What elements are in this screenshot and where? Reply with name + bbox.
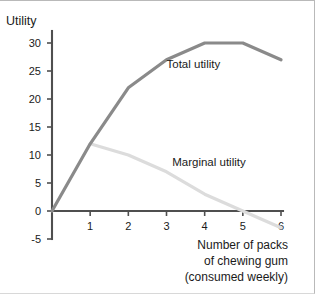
y-axis-title: Utility [6,14,37,28]
y-tick-label: 5 [35,177,41,189]
x-tick-label: 1 [87,220,93,232]
x-tick-label: 3 [163,220,169,232]
x-axis-title: Number of packsof chewing gum(consumed w… [185,238,288,284]
x-tick-label: 4 [202,220,208,232]
x-axis-title-line: of chewing gum [204,254,288,268]
y-tick-label: 20 [29,93,41,105]
utility-line-chart: Utility 302520151050-5 123456 Total util… [0,1,315,294]
x-axis-title-line: (consumed weekly) [185,270,288,284]
x-tick-label: 2 [125,220,131,232]
series-label-total-utility: Total utility [167,58,221,70]
chart-frame: Utility 302520151050-5 123456 Total util… [0,0,315,294]
y-tick-label: 10 [29,149,41,161]
y-tick-label: 0 [35,205,41,217]
x-axis-tick-labels: 123456 [87,220,284,232]
y-tick-label: -5 [31,233,41,245]
chart-plot-area: Utility 302520151050-5 123456 Total util… [0,1,314,293]
y-tick-label: 30 [29,37,41,49]
series-label-marginal-utility: Marginal utility [172,156,246,168]
y-axis-tick-labels: 302520151050-5 [29,37,41,245]
x-tick-label: 5 [240,220,246,232]
y-tick-label: 25 [29,65,41,77]
y-tick-label: 15 [29,121,41,133]
x-axis-title-line: Number of packs [197,238,288,252]
